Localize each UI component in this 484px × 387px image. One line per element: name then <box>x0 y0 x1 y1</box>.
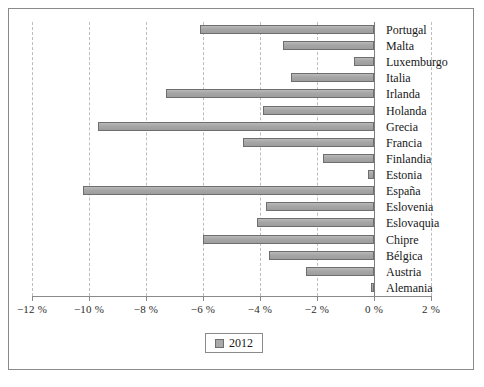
bar-malta <box>283 41 374 50</box>
plot-area: PortugalMaltaLuxemburgoItaliaIrlandaHola… <box>32 22 431 296</box>
bar-blgica <box>269 251 374 260</box>
x-tick-label--2: −2 % <box>305 303 329 315</box>
bar-row: Malta <box>32 38 431 54</box>
category-label-alemania: Alemania <box>386 281 433 296</box>
bar-row: Alemania <box>32 280 431 296</box>
category-label-eslovaquia: Eslovaquia <box>386 216 439 231</box>
bar-francia <box>243 138 374 147</box>
x-tick-label-2: 2 % <box>422 303 440 315</box>
category-label-blgica: Bélgica <box>386 249 423 264</box>
category-label-finlandia: Finlandia <box>386 152 431 167</box>
bar-row: Irlanda <box>32 86 431 102</box>
x-tick-label--12: −12 % <box>17 303 47 315</box>
bar-chipre <box>203 235 374 244</box>
category-label-luxemburgo: Luxemburgo <box>386 55 448 70</box>
x-tick--4 <box>260 296 261 301</box>
figure: PortugalMaltaLuxemburgoItaliaIrlandaHola… <box>0 0 484 387</box>
bar-row: Chipre <box>32 232 431 248</box>
bar-row: Austria <box>32 264 431 280</box>
bar-row: Italia <box>32 70 431 86</box>
bar-row: Francia <box>32 135 431 151</box>
category-label-chipre: Chipre <box>386 233 419 248</box>
bar-italia <box>291 73 374 82</box>
x-tick-0 <box>374 296 375 301</box>
x-tick--12 <box>32 296 33 301</box>
bar-row: Holanda <box>32 103 431 119</box>
x-tick--6 <box>203 296 204 301</box>
bar-row: Eslovenia <box>32 199 431 215</box>
x-tick--10 <box>89 296 90 301</box>
bar-estonia <box>368 170 374 179</box>
category-label-malta: Malta <box>386 39 414 54</box>
legend[interactable]: 2012 <box>205 333 263 353</box>
x-tick-label--4: −4 % <box>248 303 272 315</box>
x-tick-label-0: 0 % <box>365 303 383 315</box>
bar-row: España <box>32 183 431 199</box>
category-label-estonia: Estonia <box>386 168 422 183</box>
category-label-grecia: Grecia <box>386 120 418 135</box>
bar-espaa <box>83 186 374 195</box>
x-tick-label--6: −6 % <box>191 303 215 315</box>
x-tick-label--8: −8 % <box>134 303 158 315</box>
bar-portugal <box>200 25 374 34</box>
bar-eslovenia <box>266 202 374 211</box>
x-tick--8 <box>146 296 147 301</box>
bar-grecia <box>98 122 374 131</box>
category-label-portugal: Portugal <box>386 23 427 38</box>
bar-finlandia <box>323 154 374 163</box>
x-tick-2 <box>431 296 432 301</box>
category-label-irlanda: Irlanda <box>386 87 420 102</box>
category-label-espaa: España <box>386 184 421 199</box>
category-label-austria: Austria <box>386 265 421 280</box>
x-tick--2 <box>317 296 318 301</box>
legend-label-2012: 2012 <box>229 337 253 349</box>
x-tick-label--10: −10 % <box>74 303 104 315</box>
bar-row: Grecia <box>32 119 431 135</box>
bar-row: Finlandia <box>32 151 431 167</box>
bar-luxemburgo <box>354 57 374 66</box>
category-label-holanda: Holanda <box>386 104 427 119</box>
category-label-eslovenia: Eslovenia <box>386 200 433 215</box>
legend-swatch-2012 <box>215 339 224 348</box>
bar-austria <box>306 267 374 276</box>
bar-irlanda <box>166 89 374 98</box>
category-label-francia: Francia <box>386 136 422 151</box>
bar-row: Eslovaquia <box>32 215 431 231</box>
x-axis-line <box>32 296 431 297</box>
bar-row: Estonia <box>32 167 431 183</box>
bar-alemania <box>371 283 374 292</box>
bar-row: Portugal <box>32 22 431 38</box>
bar-row: Bélgica <box>32 248 431 264</box>
bar-row: Luxemburgo <box>32 54 431 70</box>
bar-eslovaquia <box>257 218 374 227</box>
category-label-italia: Italia <box>386 71 411 86</box>
bar-holanda <box>263 106 374 115</box>
